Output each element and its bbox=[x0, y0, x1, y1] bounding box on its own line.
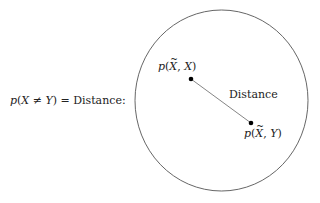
px-p: p bbox=[158, 60, 165, 73]
eq-neq: ≠ bbox=[29, 94, 45, 107]
distance-line bbox=[191, 79, 251, 123]
equation-label: p(X ≠ Y) = Distance: bbox=[10, 94, 126, 107]
px-close: ) bbox=[192, 60, 196, 73]
px-xtilde: X bbox=[169, 60, 177, 73]
point-x-label: p(X, X) bbox=[158, 60, 196, 73]
eq-equals-text: = Distance: bbox=[57, 94, 126, 107]
py-xtilde: X bbox=[255, 127, 263, 140]
py-p: p bbox=[244, 127, 251, 140]
point-x-dot bbox=[189, 77, 194, 82]
point-y-label: p(X, Y) bbox=[244, 127, 282, 140]
distance-circle bbox=[135, 10, 308, 191]
point-y-dot bbox=[249, 121, 254, 126]
eq-x: X bbox=[21, 94, 29, 107]
eq-p: p bbox=[10, 94, 17, 107]
py-close: ) bbox=[277, 127, 281, 140]
distance-label: Distance bbox=[229, 88, 278, 101]
px-x: X bbox=[184, 60, 192, 73]
eq-y: Y bbox=[45, 94, 52, 107]
